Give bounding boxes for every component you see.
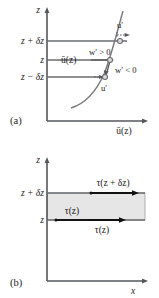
panel-a-u-axis-arrowhead bbox=[142, 119, 148, 124]
panel-b: z x z + δz z τ(z + δz) bbox=[10, 155, 148, 296]
figure-canvas: z ū(z) z + δz z z − δz ū(z) w′ > 0 bbox=[0, 0, 159, 298]
panel-a-tick-label-middle: z bbox=[39, 55, 44, 65]
panel-b-stress-bottom-label: τ(z) bbox=[95, 225, 109, 236]
panel-a-tick-label-upper: z + δz bbox=[20, 36, 44, 46]
panel-a-marker-lower bbox=[103, 75, 108, 80]
panel-a-wprime-positive-label: w′ > 0 bbox=[89, 47, 111, 57]
panel-b-tick-label-lower: z bbox=[39, 215, 44, 225]
panel-b-tick-label-upper: z + δz bbox=[20, 188, 44, 198]
panel-a-vertical-axis bbox=[45, 7, 50, 121]
panel-a-tick-label-lower: z − δz bbox=[20, 72, 44, 82]
panel-a-marker-middle bbox=[108, 58, 113, 63]
panel-a-z-axis-label: z bbox=[35, 5, 40, 15]
panel-b-horizontal-axis bbox=[47, 279, 148, 284]
panel-a-wprime-negative-label: w′ < 0 bbox=[115, 65, 137, 75]
panel-b-stress-inner-label: τ(z) bbox=[65, 206, 79, 217]
panel-b-x-axis-label: x bbox=[130, 286, 136, 296]
panel-a-uprime-upper-arrowhead bbox=[125, 33, 130, 37]
turbulent-momentum-flux-figure: z ū(z) z + δz z z − δz ū(z) w′ > 0 bbox=[0, 0, 159, 298]
panel-a-uprime-lower-label: u′ bbox=[101, 83, 107, 93]
panel-b-z-axis-arrowhead bbox=[45, 157, 50, 163]
panel-b-control-volume bbox=[47, 193, 145, 220]
panel-a-u-axis-label: ū(z) bbox=[116, 126, 131, 137]
panel-a-marker-upper bbox=[118, 39, 123, 44]
panel-b-z-axis-label: z bbox=[35, 155, 40, 165]
panel-b-x-axis-arrowhead bbox=[142, 279, 148, 284]
panel-b-stress-top-label: τ(z + δz) bbox=[96, 178, 129, 189]
panel-a-horizontal-axis bbox=[47, 119, 148, 124]
panel-a-uprime-upper-annotation: u′ bbox=[117, 20, 130, 38]
panel-a: z ū(z) z + δz z z − δz ū(z) w′ > 0 bbox=[10, 5, 148, 137]
panel-b-caption: (b) bbox=[10, 277, 23, 289]
panel-a-uprime-upper-label: u′ bbox=[117, 20, 123, 30]
panel-a-caption: (a) bbox=[10, 115, 22, 127]
panel-a-z-axis-arrowhead bbox=[45, 7, 50, 13]
panel-a-curve-label: ū(z) bbox=[61, 55, 76, 66]
